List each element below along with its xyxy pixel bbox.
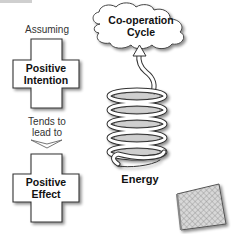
cooperation-line2: Cycle [96, 26, 186, 38]
cooperation-cycle-text: Co-operation Cycle [96, 14, 186, 38]
positive-intention-text: Positive Intention [13, 62, 79, 86]
mesh-screen-icon [177, 184, 226, 230]
arrow-up-icon [133, 45, 154, 94]
chevron-down-icon [31, 140, 62, 148]
assuming-label: Assuming [14, 24, 80, 35]
tends-to-line1: Tends to [14, 116, 80, 127]
spring-coil-icon [109, 90, 165, 167]
positive-intention-line2: Intention [13, 74, 79, 86]
energy-label: Energy [112, 173, 168, 185]
tends-to-lead-to-label: Tends to lead to [14, 116, 80, 138]
positive-effect-line2: Effect [13, 188, 79, 200]
positive-effect-text: Positive Effect [13, 176, 79, 200]
clipped-text-fragment [0, 0, 32, 3]
positive-intention-line1: Positive [13, 62, 79, 74]
positive-effect-line1: Positive [13, 176, 79, 188]
cooperation-line1: Co-operation [96, 14, 186, 26]
tends-to-line2: lead to [14, 127, 80, 138]
